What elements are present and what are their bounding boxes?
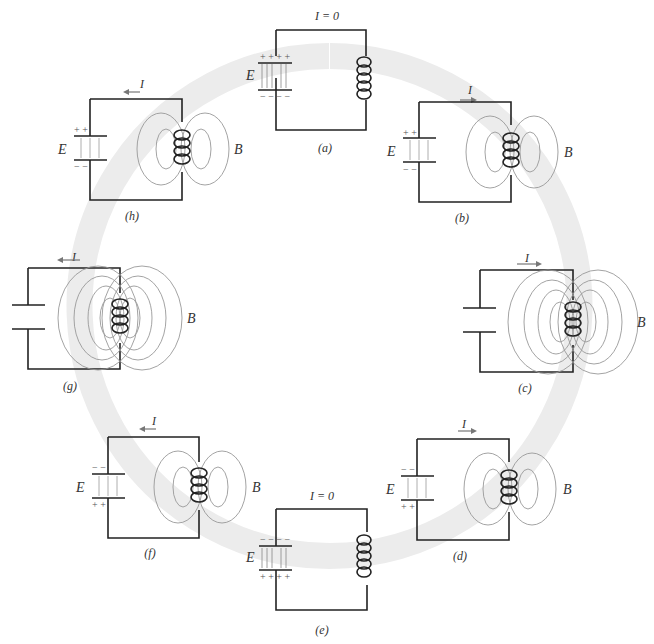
- panel-caption: (g): [63, 379, 77, 393]
- b-field-label: B: [563, 482, 572, 497]
- b-field-label: B: [187, 311, 196, 326]
- current-label: I = 0: [314, 9, 339, 23]
- current-label: I = 0: [309, 489, 334, 503]
- b-field-label: B: [637, 315, 646, 330]
- panel-caption: (e): [315, 623, 328, 637]
- e-field-label: E: [385, 482, 395, 497]
- b-field-label: B: [564, 145, 573, 160]
- capacitor-top-charge: + +: [74, 124, 88, 135]
- capacitor-top-charge: − − − −: [260, 534, 290, 545]
- lc-oscillation-diagram: I = 0 + + + + − − − − E (a) I + + − − E: [0, 0, 654, 644]
- current-label: I: [461, 417, 467, 431]
- panel-caption: (f): [144, 546, 155, 560]
- panel-caption: (h): [125, 209, 139, 223]
- e-field-label: E: [245, 550, 255, 565]
- panel-caption: (a): [318, 141, 332, 155]
- e-field-label: E: [245, 68, 255, 83]
- panel-caption: (c): [518, 381, 531, 395]
- capacitor-bottom-charge: − − − −: [260, 91, 290, 102]
- capacitor-top-charge: − −: [92, 462, 106, 473]
- capacitor-bottom-charge: − −: [74, 161, 88, 172]
- panel-caption: (d): [453, 549, 467, 563]
- capacitor-top-charge: − −: [401, 464, 415, 475]
- b-field-label: B: [252, 480, 261, 495]
- current-label: I: [139, 77, 145, 91]
- capacitor-top-charge: + +: [403, 127, 417, 138]
- capacitor-bottom-charge: + + + +: [260, 571, 290, 582]
- capacitor-bottom-charge: − −: [403, 164, 417, 175]
- capacitor-top-charge: + + + +: [260, 51, 290, 62]
- panel-c: I B (c): [463, 251, 646, 395]
- current-label: I: [151, 414, 157, 428]
- panel-caption: (b): [455, 211, 469, 225]
- current-label: I: [524, 251, 530, 265]
- e-field-label: E: [57, 142, 67, 157]
- b-field-label: B: [234, 142, 243, 157]
- capacitor-bottom-charge: + +: [92, 499, 106, 510]
- panel-a: I = 0 + + + + − − − − E (a): [245, 9, 371, 155]
- panel-g: I B (g): [12, 250, 196, 393]
- capacitor-bottom-charge: + +: [401, 501, 415, 512]
- e-field-label: E: [386, 144, 396, 159]
- e-field-label: E: [75, 480, 85, 495]
